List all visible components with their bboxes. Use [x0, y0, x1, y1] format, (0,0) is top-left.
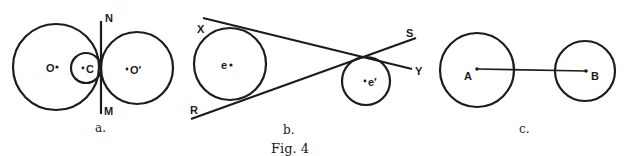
- center-a: [475, 67, 479, 71]
- label-b: B: [591, 70, 599, 82]
- figure-4: O C O′ N M a. e e′ X Y R S b. Fig. 4 A B…: [0, 0, 624, 156]
- panel-a-label: a.: [95, 121, 106, 135]
- label-x: X: [197, 23, 205, 35]
- label-a: A: [464, 70, 472, 82]
- figure-caption: Fig. 4: [271, 141, 309, 156]
- panel-c: A B c.: [440, 33, 615, 136]
- center-e-prime: [364, 80, 367, 83]
- panel-b-label: b.: [283, 123, 295, 137]
- label-e-prime: e′: [368, 76, 377, 88]
- panel-b: e e′ X Y R S b. Fig. 4: [190, 18, 423, 156]
- segment-ab: [477, 69, 586, 71]
- center-e: [229, 63, 232, 66]
- panel-a: O C O′ N M a.: [13, 12, 173, 135]
- label-o-prime: O′: [130, 64, 142, 76]
- label-y: Y: [415, 65, 423, 77]
- center-b: [584, 69, 588, 73]
- label-n: N: [105, 12, 113, 24]
- label-o: O: [46, 62, 55, 74]
- center-c: [82, 67, 85, 70]
- label-e: e: [221, 59, 227, 71]
- center-o: [55, 65, 58, 68]
- tangent-line-rs: [191, 38, 416, 119]
- label-m: M: [104, 105, 113, 117]
- tangent-line-xy: [203, 18, 412, 69]
- label-c: C: [86, 63, 94, 75]
- panel-c-label: c.: [519, 122, 530, 136]
- label-r: R: [190, 104, 198, 116]
- label-s: S: [406, 27, 413, 39]
- center-o-prime: [126, 68, 129, 71]
